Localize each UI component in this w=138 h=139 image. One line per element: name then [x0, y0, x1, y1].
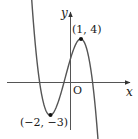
x-axis-label: x: [126, 86, 133, 98]
min-point-label: (−2, −3): [20, 117, 68, 128]
max-point-label: (1, 4): [72, 24, 102, 35]
max-point: [79, 37, 83, 41]
y-axis-label: y: [61, 7, 68, 19]
origin-label: O: [73, 85, 82, 96]
